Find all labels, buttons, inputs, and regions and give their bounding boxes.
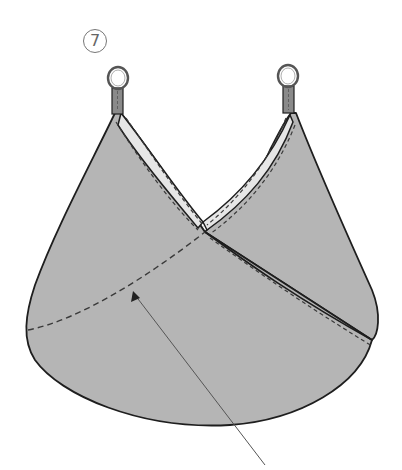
left-ring-inner [111, 70, 125, 86]
bag-diagram [0, 0, 402, 470]
right-ring-inner [281, 68, 295, 84]
